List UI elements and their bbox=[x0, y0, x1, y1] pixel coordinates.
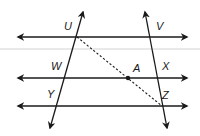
label-v: V bbox=[156, 20, 165, 32]
label-z: Z bbox=[161, 89, 170, 101]
point-a bbox=[126, 76, 130, 80]
dashed-segment-uz bbox=[77, 37, 162, 106]
label-a: A bbox=[132, 62, 140, 74]
geometry-diagram: U V W A X Y Z bbox=[0, 0, 200, 136]
label-w: W bbox=[51, 60, 63, 72]
label-y: Y bbox=[47, 88, 55, 100]
scan-artifact-band bbox=[0, 48, 200, 50]
label-u: U bbox=[64, 20, 72, 32]
label-x: X bbox=[161, 60, 170, 72]
